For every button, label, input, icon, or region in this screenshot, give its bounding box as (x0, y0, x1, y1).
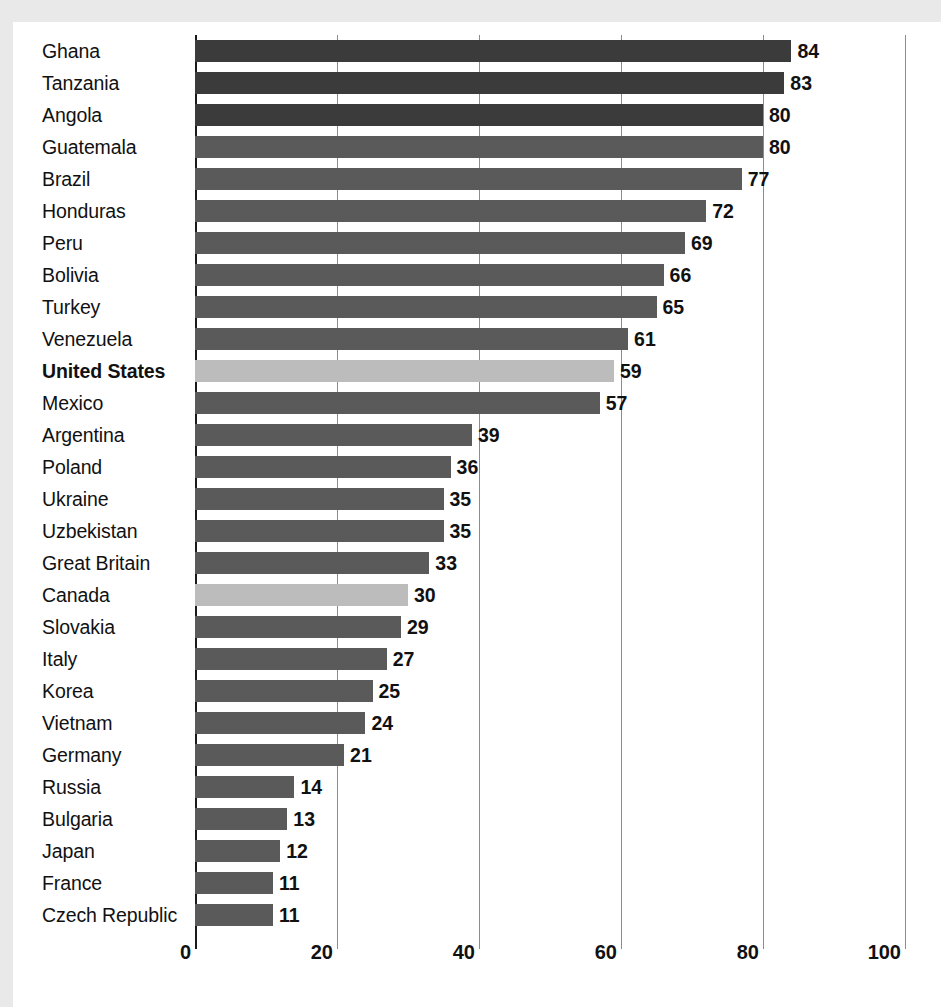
category-label: Great Britain (42, 547, 150, 579)
bar-row: Mexico57 (13, 387, 941, 419)
bar-row: Ghana84 (13, 35, 941, 67)
chart-canvas: Ghana84Tanzania83Angola80Guatemala80Braz… (13, 22, 941, 1007)
bar-value-label: 80 (769, 131, 791, 163)
bar (195, 808, 287, 830)
bar-value-label: 59 (620, 355, 642, 387)
bar (195, 488, 444, 510)
bar-row: Venezuela61 (13, 323, 941, 355)
bar (195, 680, 373, 702)
bar-row: Peru69 (13, 227, 941, 259)
bar-value-label: 84 (797, 35, 819, 67)
category-label: Turkey (42, 291, 100, 323)
bar (195, 776, 294, 798)
category-label: Brazil (42, 163, 90, 195)
category-label: Bolivia (42, 259, 99, 291)
bar-row: Ukraine35 (13, 483, 941, 515)
category-label: Peru (42, 227, 83, 259)
bar-value-label: 24 (371, 707, 393, 739)
bar-value-label: 33 (435, 547, 457, 579)
bar (195, 392, 600, 414)
bar-row: Turkey65 (13, 291, 941, 323)
bar-value-label: 30 (414, 579, 436, 611)
bar-row: Canada30 (13, 579, 941, 611)
bar-value-label: 35 (450, 515, 472, 547)
bar-row: Czech Republic11 (13, 899, 941, 931)
bar (195, 72, 784, 94)
bar-row: Poland36 (13, 451, 941, 483)
bar (195, 200, 706, 222)
bar-value-label: 11 (279, 867, 300, 899)
category-label: Czech Republic (42, 899, 177, 931)
category-label: United States (42, 355, 165, 387)
bar (195, 424, 472, 446)
bar (195, 104, 763, 126)
bar (195, 328, 628, 350)
bar (195, 136, 763, 158)
category-label: Poland (42, 451, 102, 483)
category-label: Canada (42, 579, 110, 611)
bar-value-label: 11 (279, 899, 300, 931)
bar-row: United States59 (13, 355, 941, 387)
bar (195, 584, 408, 606)
x-tick-label-20: 20 (311, 941, 337, 964)
bar-value-label: 72 (712, 195, 734, 227)
bar-value-label: 35 (450, 483, 472, 515)
category-label: Angola (42, 99, 102, 131)
bar (195, 712, 365, 734)
bar-value-label: 66 (670, 259, 692, 291)
bar-row: Italy27 (13, 643, 941, 675)
category-label: Guatemala (42, 131, 137, 163)
bar (195, 552, 429, 574)
category-label: Ukraine (42, 483, 109, 515)
category-label: Venezuela (42, 323, 132, 355)
bar (195, 264, 664, 286)
bar-row: Slovakia29 (13, 611, 941, 643)
bar-value-label: 27 (393, 643, 415, 675)
bar-value-label: 29 (407, 611, 429, 643)
bar (195, 296, 657, 318)
bar (195, 40, 791, 62)
bar-value-label: 83 (790, 67, 812, 99)
category-label: Honduras (42, 195, 126, 227)
bar-row: Guatemala80 (13, 131, 941, 163)
bar-row: Germany21 (13, 739, 941, 771)
bar (195, 744, 344, 766)
category-label: Tanzania (42, 67, 119, 99)
bar-row: Great Britain33 (13, 547, 941, 579)
bar (195, 520, 444, 542)
bar-value-label: 14 (300, 771, 322, 803)
x-axis: 020406080100 (13, 941, 941, 975)
bar-row: Bulgaria13 (13, 803, 941, 835)
bar-row: Tanzania83 (13, 67, 941, 99)
category-label: Russia (42, 771, 101, 803)
x-tick-label-40: 40 (453, 941, 479, 964)
bar (195, 904, 273, 926)
bar (195, 616, 401, 638)
category-label: Argentina (42, 419, 125, 451)
bar (195, 872, 273, 894)
category-label: France (42, 867, 102, 899)
bar-row: France11 (13, 867, 941, 899)
x-tick-label-60: 60 (595, 941, 621, 964)
x-tick-label-0: 0 (180, 941, 195, 964)
bar (195, 840, 280, 862)
bar-row: Argentina39 (13, 419, 941, 451)
bar-rows: Ghana84Tanzania83Angola80Guatemala80Braz… (13, 35, 941, 931)
bar (195, 648, 387, 670)
bar-row: Honduras72 (13, 195, 941, 227)
bar-value-label: 57 (606, 387, 628, 419)
bar-row: Korea25 (13, 675, 941, 707)
bar (195, 456, 451, 478)
bar (195, 360, 614, 382)
category-label: Slovakia (42, 611, 115, 643)
bar-row: Vietnam24 (13, 707, 941, 739)
plot-area: Ghana84Tanzania83Angola80Guatemala80Braz… (13, 22, 941, 1007)
category-label: Japan (42, 835, 95, 867)
bar-value-label: 80 (769, 99, 791, 131)
bar-row: Uzbekistan35 (13, 515, 941, 547)
bar-value-label: 12 (286, 835, 308, 867)
bar (195, 168, 742, 190)
category-label: Ghana (42, 35, 100, 67)
bar-row: Russia14 (13, 771, 941, 803)
category-label: Korea (42, 675, 94, 707)
